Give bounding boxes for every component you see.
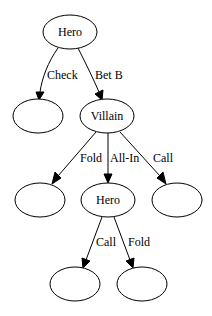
edge-villain-fold: Fold — [52, 132, 102, 184]
node-villain: Villain — [80, 99, 134, 133]
game-tree-diagram: Check Bet B Fold All-In Call Call Fold — [0, 0, 212, 316]
node-check-terminal — [13, 99, 63, 133]
arrow-head-icon — [82, 258, 90, 268]
edge-check: Check — [36, 48, 78, 100]
edge-label-check: Check — [47, 68, 78, 82]
edge-label-hero-call: Call — [96, 235, 117, 249]
edge-bet-b: Bet B — [78, 48, 123, 100]
edge-label-hero-fold: Fold — [128, 235, 150, 249]
node-root-hero: Hero — [43, 15, 97, 49]
node-hero-fold-terminal — [117, 267, 167, 301]
edge-label-bet-b: Bet B — [95, 68, 123, 82]
node-label-villain: Villain — [91, 109, 124, 123]
arrow-head-icon — [95, 90, 103, 100]
edge-label-villain-fold: Fold — [80, 151, 102, 165]
arrow-head-icon — [104, 174, 112, 183]
node-fold-terminal — [15, 183, 65, 217]
edge-label-villain-all-in: All-In — [110, 151, 139, 165]
edge-villain-all-in: All-In — [104, 133, 139, 183]
node-hero-second: Hero — [81, 183, 135, 217]
node-label-hero-second: Hero — [96, 193, 120, 207]
arrow-head-icon — [126, 258, 134, 268]
edge-hero-fold: Fold — [114, 217, 150, 268]
edge-label-villain-call: Call — [153, 151, 174, 165]
node-hero-call-terminal — [50, 267, 100, 301]
node-call-terminal — [152, 183, 202, 217]
node-label-root-hero: Hero — [58, 25, 82, 39]
edge-hero-call: Call — [82, 217, 117, 268]
